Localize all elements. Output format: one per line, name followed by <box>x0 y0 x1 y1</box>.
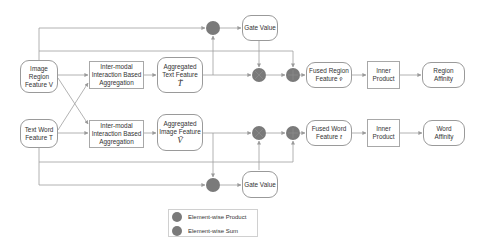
node-label: Inter-modal <box>100 122 132 130</box>
node-symbol: t̂ <box>340 133 342 141</box>
node-label-text: Feature <box>316 75 338 82</box>
element-wise-product-icon <box>206 178 220 192</box>
node-label: Inner <box>376 125 391 133</box>
node-label: Image <box>30 65 48 73</box>
legend-label: Element-wise Sum <box>188 228 238 234</box>
inter-modal-aggregation-bottom: Inter-modal Interaction Based Aggregatio… <box>89 120 144 148</box>
aggregated-image-feature-node: Aggregated Image Feature Ṽ <box>157 114 203 151</box>
node-label: Gate Value <box>244 24 276 32</box>
gate-value-bottom-node: Gate Value <box>242 171 278 198</box>
node-label: Feature T <box>25 134 53 142</box>
legend-label: Element-wise Product <box>188 214 246 220</box>
text-word-feature-node: Text Word Feature T <box>20 119 58 148</box>
node-label: Region <box>29 73 49 81</box>
node-label: Region <box>433 67 453 75</box>
fused-region-feature-node: Fused Region Feature v̂ <box>306 62 352 88</box>
node-label: Interaction Based <box>92 130 142 138</box>
node-label: Feature v̂ <box>316 75 343 84</box>
inter-modal-aggregation-top: Inter-modal Interaction Based Aggregatio… <box>89 61 144 89</box>
node-label: Product <box>372 75 394 83</box>
region-affinity-node: Region Affinity <box>422 62 465 88</box>
node-label: Feature t̂ <box>316 133 342 142</box>
node-label: Aggregation <box>99 138 133 146</box>
node-symbol: Ṽ <box>177 136 183 145</box>
node-label: Interaction Based <box>92 71 142 79</box>
element-wise-product-icon <box>206 21 220 35</box>
image-region-feature-node: Image Region Feature V <box>20 60 58 93</box>
node-label: Word <box>436 125 451 133</box>
node-label: Inter-modal <box>100 63 132 71</box>
legend-item-product: Element-wise Product <box>172 211 246 223</box>
inner-product-top-node: Inner Product <box>367 61 400 89</box>
node-label: Aggregation <box>99 79 133 87</box>
node-label: Aggregated <box>163 120 196 128</box>
node-symbol: v̂ <box>339 75 342 83</box>
node-label: Aggregated <box>163 63 196 71</box>
node-label: Fused Region <box>309 67 349 75</box>
node-label: Product <box>372 133 394 141</box>
node-symbol: T̃ <box>177 79 182 88</box>
legend-item-sum: Element-wise Sum <box>172 225 238 237</box>
node-label: Fused Word <box>312 125 347 133</box>
element-wise-product-icon <box>172 212 182 222</box>
node-label: Gate Value <box>244 181 276 189</box>
fused-word-feature-node: Fused Word Feature t̂ <box>306 120 352 146</box>
inner-product-bottom-node: Inner Product <box>367 119 400 147</box>
legend: Element-wise Product Element-wise Sum <box>168 209 258 237</box>
element-wise-sum-icon <box>172 226 182 236</box>
word-affinity-node: Word Affinity <box>423 120 465 146</box>
aggregated-text-feature-node: Aggregated Text Feature T̃ <box>157 57 203 93</box>
node-label: Affinity <box>434 75 453 83</box>
node-label: Text Word <box>25 126 54 134</box>
node-label: Feature V <box>25 81 53 89</box>
gate-value-top-node: Gate Value <box>242 15 278 41</box>
node-label: Inner <box>376 67 391 75</box>
node-label: Affinity <box>434 133 453 141</box>
node-label-text: Feature <box>316 133 338 140</box>
